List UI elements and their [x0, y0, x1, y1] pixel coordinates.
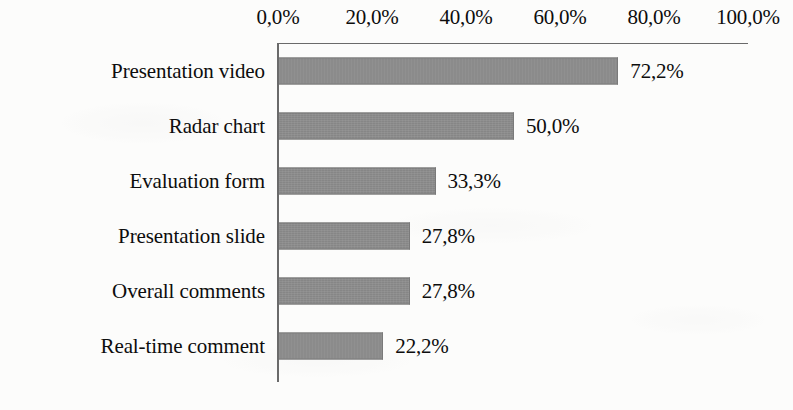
bar-row: Radar chart 50,0% — [0, 98, 793, 153]
bar-row: Real-time comment 22,2% — [0, 318, 793, 373]
bar-chart: 0,0% 20,0% 40,0% 60,0% 80,0% 100,0% Pres… — [0, 0, 793, 410]
bar-presentation-video — [279, 57, 618, 84]
category-label-presentation-slide: Presentation slide — [118, 223, 265, 249]
bar-radar-chart — [279, 112, 514, 139]
value-label-radar-chart: 50,0% — [526, 113, 579, 139]
bar-texture — [279, 58, 617, 83]
x-tick-label-3: 60,0% — [533, 4, 586, 30]
bar-real-time-comment — [279, 332, 383, 359]
bar-row: Evaluation form 33,3% — [0, 153, 793, 208]
value-label-presentation-slide: 27,8% — [422, 223, 475, 249]
value-label-overall-comments: 27,8% — [422, 278, 475, 304]
bar-row: Presentation slide 27,8% — [0, 208, 793, 263]
category-label-radar-chart: Radar chart — [169, 113, 265, 139]
category-label-presentation-video: Presentation video — [111, 58, 265, 84]
x-tick-label-4: 80,0% — [627, 4, 680, 30]
x-tick-label-5: 100,0% — [716, 4, 780, 30]
bar-row: Overall comments 27,8% — [0, 263, 793, 318]
bar-row: Presentation video 72,2% — [0, 43, 793, 98]
value-label-evaluation-form: 33,3% — [448, 168, 501, 194]
bar-presentation-slide — [279, 222, 410, 249]
category-label-real-time-comment: Real-time comment — [101, 333, 266, 359]
category-label-evaluation-form: Evaluation form — [129, 168, 265, 194]
bar-texture — [279, 333, 382, 358]
bar-evaluation-form — [279, 167, 436, 194]
x-tick-label-0: 0,0% — [257, 4, 300, 30]
x-tick-label-2: 40,0% — [439, 4, 492, 30]
bar-overall-comments — [279, 277, 410, 304]
bar-texture — [279, 113, 513, 138]
value-label-real-time-comment: 22,2% — [395, 333, 448, 359]
bar-texture — [279, 168, 435, 193]
bar-texture — [279, 223, 409, 248]
value-label-presentation-video: 72,2% — [630, 58, 683, 84]
category-label-overall-comments: Overall comments — [112, 278, 265, 304]
x-tick-label-1: 20,0% — [345, 4, 398, 30]
bar-texture — [279, 278, 409, 303]
